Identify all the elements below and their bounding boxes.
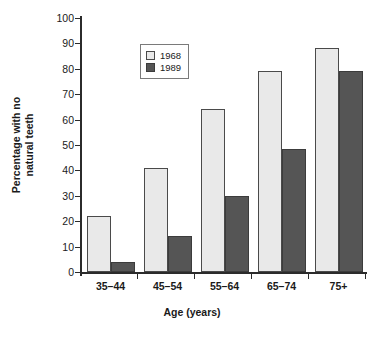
y-axis-title: Percentage with no natural teeth <box>0 0 46 290</box>
y-axis-title-line1: Percentage with no <box>10 97 22 193</box>
bar-1968-35–44[interactable] <box>87 216 111 272</box>
x-axis-spine <box>80 272 367 274</box>
y-axis-tick-label: 10 <box>44 241 74 253</box>
x-axis-tick-label: 55–64 <box>210 280 239 292</box>
y-axis-tick-label: 40 <box>44 164 74 176</box>
y-axis-tick-mark <box>75 196 80 197</box>
y-axis-tick-mark <box>75 18 80 19</box>
bar-group <box>258 18 306 272</box>
x-axis-tick-mark <box>308 274 309 279</box>
y-axis-tick-label: 90 <box>44 37 74 49</box>
y-axis-tick-mark <box>75 120 80 121</box>
y-axis-tick-mark <box>75 170 80 171</box>
bar-group <box>315 18 363 272</box>
bar-chart: Percentage with no natural teeth 0102030… <box>0 0 384 337</box>
x-axis-tick-label: 45–54 <box>153 280 182 292</box>
x-axis-tick-mark <box>194 274 195 279</box>
x-axis-tick-mark <box>251 274 252 279</box>
y-axis-tick-mark <box>75 221 80 222</box>
bar-1989-45–54[interactable] <box>168 236 192 272</box>
y-axis-tick-mark <box>75 69 80 70</box>
bar-1968-75+[interactable] <box>315 48 339 272</box>
y-axis-tick-labels: 0102030405060708090100 <box>44 18 74 274</box>
y-axis-tick-mark <box>75 94 80 95</box>
y-axis-tick-label: 60 <box>44 114 74 126</box>
x-axis-tick-label: 65–74 <box>267 280 296 292</box>
y-axis-tick-mark <box>75 272 80 273</box>
y-axis-tick-label: 20 <box>44 215 74 227</box>
bar-1989-35–44[interactable] <box>111 262 135 272</box>
y-axis-tick-label: 70 <box>44 88 74 100</box>
y-axis-tick-label: 0 <box>44 266 74 278</box>
legend-item-1989[interactable]: 1989 <box>146 62 181 73</box>
x-axis-tick-mark <box>137 274 138 279</box>
y-axis-tick-mark <box>75 43 80 44</box>
y-axis-tick-label: 80 <box>44 63 74 75</box>
x-axis-tick-label: 35–44 <box>96 280 125 292</box>
bar-1989-65–74[interactable] <box>282 149 306 272</box>
bar-1968-65–74[interactable] <box>258 71 282 272</box>
bar-1968-45–54[interactable] <box>144 168 168 272</box>
y-axis-tick-label: 30 <box>44 190 74 202</box>
bar-group <box>87 18 135 272</box>
y-axis-tick-label: 50 <box>44 139 74 151</box>
x-axis-tick-mark <box>365 274 366 279</box>
bar-1968-55–64[interactable] <box>201 109 225 272</box>
legend-swatch-icon <box>146 63 155 72</box>
bar-1989-75+[interactable] <box>339 71 363 272</box>
bar-groups <box>82 18 367 272</box>
bar-1989-55–64[interactable] <box>225 196 249 272</box>
x-axis-title: Age (years) <box>0 306 384 318</box>
bar-group <box>201 18 249 272</box>
y-axis-tick-mark <box>75 145 80 146</box>
y-axis-title-line2: natural teeth <box>23 97 36 193</box>
legend-label: 1968 <box>160 50 181 61</box>
y-axis-tick-label: 100 <box>44 12 74 24</box>
plot-area <box>80 18 367 274</box>
legend-swatch-icon <box>146 51 155 60</box>
legend-item-1968[interactable]: 1968 <box>146 50 181 61</box>
legend-label: 1989 <box>160 62 181 73</box>
y-axis-tick-mark <box>75 247 80 248</box>
legend: 19681989 <box>140 44 189 79</box>
x-axis-tick-label: 75+ <box>330 280 348 292</box>
